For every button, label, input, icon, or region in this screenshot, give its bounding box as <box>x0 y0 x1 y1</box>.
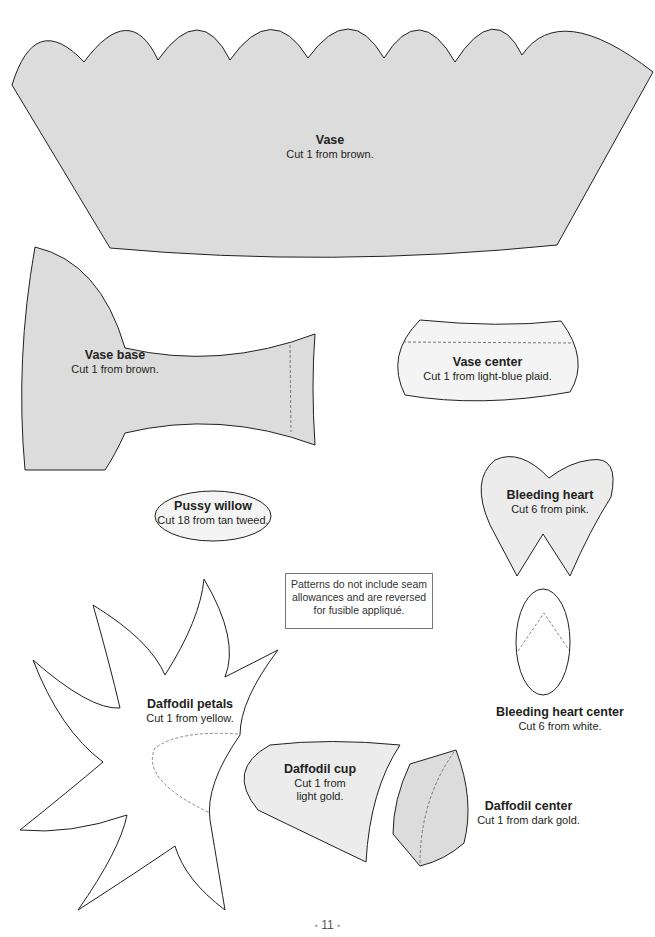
vase-center-label: Vase center Cut 1 from light-blue plaid. <box>400 355 575 383</box>
bleeding-heart-center-label: Bleeding heart center Cut 6 from white. <box>470 705 650 733</box>
pussy-willow-instruction: Cut 18 from tan tweed. <box>153 514 273 527</box>
seam-allowance-note: Patterns do not include seam allowances … <box>285 573 433 629</box>
vase-base-instruction: Cut 1 from brown. <box>40 363 190 376</box>
daffodil-cup-instruction-line1: Cut 1 from <box>270 777 370 790</box>
daffodil-center-title: Daffodil center <box>466 799 591 814</box>
note-line-3: for fusible appliqué. <box>286 604 432 617</box>
vase-center-title: Vase center <box>400 355 575 370</box>
bleeding-heart-center-title: Bleeding heart center <box>470 705 650 720</box>
vase-label: Vase Cut 1 from brown. <box>250 133 410 161</box>
vase-title: Vase <box>250 133 410 148</box>
page-number-value: 11 <box>321 918 333 932</box>
vase-center-instruction: Cut 1 from light-blue plaid. <box>400 370 575 383</box>
vase-base-title: Vase base <box>40 348 190 363</box>
daffodil-petals-title: Daffodil petals <box>125 697 255 712</box>
bleeding-heart-center-instruction: Cut 6 from white. <box>470 720 650 733</box>
daffodil-cup-label: Daffodil cup Cut 1 from light gold. <box>270 762 370 803</box>
vase-instruction: Cut 1 from brown. <box>250 148 410 161</box>
pussy-willow-label: Pussy willow Cut 18 from tan tweed. <box>153 499 273 527</box>
daffodil-center-shape <box>393 750 468 866</box>
daffodil-petals-label: Daffodil petals Cut 1 from yellow. <box>125 697 255 725</box>
daffodil-center-instruction: Cut 1 from dark gold. <box>466 814 591 827</box>
daffodil-petals-shape <box>20 579 278 910</box>
pussy-willow-title: Pussy willow <box>153 499 273 514</box>
bleeding-heart-instruction: Cut 6 from pink. <box>480 503 620 516</box>
bleeding-heart-label: Bleeding heart Cut 6 from pink. <box>480 488 620 516</box>
bleeding-heart-shape <box>481 457 613 576</box>
note-line-2: allowances and are reversed <box>286 591 432 604</box>
daffodil-center-label: Daffodil center Cut 1 from dark gold. <box>466 799 591 827</box>
page-number: • 11 • <box>0 918 655 932</box>
vase-base-label: Vase base Cut 1 from brown. <box>40 348 190 376</box>
bleeding-heart-title: Bleeding heart <box>480 488 620 503</box>
daffodil-petals-instruction: Cut 1 from yellow. <box>125 712 255 725</box>
daffodil-cup-title: Daffodil cup <box>270 762 370 777</box>
page-separator-right: • <box>337 921 340 931</box>
note-line-1: Patterns do not include seam <box>286 578 432 591</box>
page-separator-left: • <box>315 921 318 931</box>
daffodil-cup-instruction-line2: light gold. <box>270 790 370 803</box>
